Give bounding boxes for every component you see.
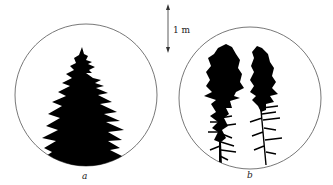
panel-b-circle bbox=[179, 27, 321, 169]
scale-bar-label: 1 m bbox=[173, 25, 190, 35]
panel-a-circle bbox=[15, 24, 157, 175]
figure-canvas bbox=[0, 0, 333, 185]
panel-b-label: b bbox=[247, 170, 253, 180]
scale-arrow-icon bbox=[166, 4, 170, 53]
spruce-tree-icon bbox=[40, 47, 130, 175]
panel-a-label: a bbox=[82, 171, 87, 181]
columnar-trees-icon bbox=[204, 44, 282, 165]
